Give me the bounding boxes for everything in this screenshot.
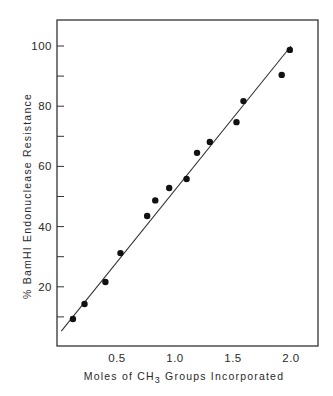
y-tick-label: 40 bbox=[38, 221, 52, 233]
data-point bbox=[287, 47, 293, 53]
y-tick-label: 80 bbox=[38, 100, 52, 112]
data-point bbox=[279, 72, 285, 78]
x-tick-label: 0.5 bbox=[108, 352, 126, 364]
x-tick-label: 1.5 bbox=[224, 352, 242, 364]
data-point bbox=[102, 279, 108, 285]
x-axis-title-post: Groups Incorporated bbox=[161, 370, 284, 382]
data-point bbox=[144, 213, 150, 219]
data-point bbox=[233, 119, 239, 125]
data-point bbox=[117, 250, 123, 256]
data-point bbox=[240, 98, 246, 104]
data-point bbox=[70, 316, 76, 322]
y-tick-label: 100 bbox=[31, 40, 52, 52]
y-tick-label: 20 bbox=[38, 281, 52, 293]
y-tick-label: 60 bbox=[38, 160, 52, 172]
data-point bbox=[207, 139, 213, 145]
chart-background bbox=[0, 0, 333, 396]
data-point bbox=[194, 150, 200, 156]
data-point bbox=[152, 197, 158, 203]
x-tick-label: 2.0 bbox=[282, 352, 300, 364]
scatter-chart: 20406080100 0.51.01.52.0 % BamHI Endonuc… bbox=[0, 0, 333, 396]
x-axis-title-pre: Moles of CH bbox=[84, 370, 155, 382]
data-point bbox=[81, 301, 87, 307]
y-axis-title: % BamHI Endonuclease Resistance bbox=[21, 93, 33, 299]
data-point bbox=[183, 176, 189, 182]
data-point bbox=[166, 185, 172, 191]
x-tick-label: 1.0 bbox=[166, 352, 184, 364]
